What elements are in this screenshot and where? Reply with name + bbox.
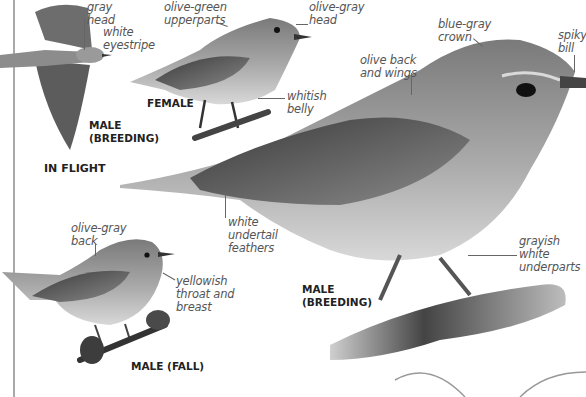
label-blue-gray-crown: blue-gray crown [438, 18, 491, 44]
label-line: bill [558, 42, 586, 55]
label-line: eyestripe [103, 39, 155, 52]
leader-line [296, 24, 308, 25]
caption-male-breeding-flight: MALE (BREEDING) [89, 119, 159, 145]
caption-in-flight: IN FLIGHT [44, 162, 105, 175]
label-line: back [71, 235, 126, 248]
caption-male-fall: MALE (FALL) [131, 360, 204, 373]
label-olive-back-and-wings: olive back and wings [360, 54, 417, 80]
leader-line [95, 244, 96, 256]
label-spiky-bill: spiky bill [558, 29, 586, 55]
caption-line: MALE [302, 283, 372, 296]
leader-line [225, 192, 226, 218]
male-fall-bird-illustration [2, 239, 175, 364]
label-line: underparts [519, 261, 586, 274]
label-line: feathers [228, 242, 278, 255]
leader-line [574, 55, 575, 72]
label-white-eyestripe: white eyestripe [103, 26, 155, 52]
label-line: breast [176, 301, 234, 314]
label-grayish-white-underparts: grayish white underparts [519, 235, 586, 274]
label-line: belly [287, 103, 326, 116]
label-line: and wings [360, 67, 417, 80]
label-yellowish-throat-and-breast: yellowish throat and breast [176, 275, 234, 314]
caption-line: (BREEDING) [89, 132, 159, 145]
caption-line: (BREEDING) [302, 296, 372, 309]
caption-female: FEMALE [147, 97, 194, 110]
label-white-undertail-feathers: white undertail feathers [228, 216, 278, 255]
label-olive-gray-back: olive-gray back [71, 222, 126, 248]
label-line: crown [438, 31, 491, 44]
leader-line [84, 18, 85, 50]
caption-male-breeding: MALE (BREEDING) [302, 283, 372, 309]
leader-line [258, 98, 285, 99]
label-olive-gray-head: olive-gray head [309, 1, 364, 27]
label-line: head [309, 14, 364, 27]
caption-line: MALE [89, 119, 159, 132]
leader-line [468, 255, 517, 256]
field-guide-plate: gray head white eyestripe MALE (BREEDING… [0, 0, 586, 397]
leader-line [411, 73, 412, 95]
label-gray-head: gray head [87, 1, 115, 27]
label-line: grayish white [519, 235, 586, 261]
label-line: upperparts [164, 14, 227, 27]
bird-illustrations [0, 0, 586, 397]
label-whitish-belly: whitish belly [287, 90, 326, 116]
